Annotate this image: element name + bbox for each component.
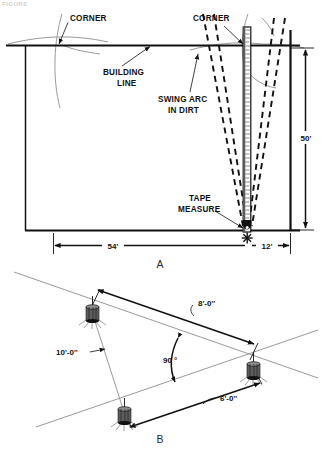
label-corner-right: CORNER [193,14,230,23]
swing-arc-dashed-right [249,18,285,226]
label-swing-arc-1: SWING ARC [158,95,207,104]
layout-figure-svg: FIGURE [0,0,321,450]
leader-building-line [122,47,150,67]
stake-upper-left [79,296,106,329]
pivot-point-starburst [242,233,253,244]
dimension-label-6ft: 6'-0'' [220,394,237,403]
label-building-line-2: LINE [117,79,137,88]
dimension-label-54ft: 54' [108,242,119,251]
leader-corner-left [59,23,68,45]
label-swing-arc-2: IN DIRT [168,106,199,115]
dimension-8ft: 8'-0'' [92,289,258,360]
figure-b-caption: B [156,433,163,445]
label-corner-left: CORNER [70,14,107,23]
swing-arc-scribe-lines [8,14,304,108]
string-line-hypotenuse [92,312,124,412]
dimension-horizontal-54: 54' [54,233,246,254]
label-tape-measure-1: TAPE [189,194,211,203]
figure-a-group: CORNER CORNER BUILDING LINE SWING ARC IN… [6,14,316,270]
page-header-crumb: FIGURE [2,1,28,7]
dimension-label-8ft: 8'-0'' [198,299,215,308]
label-tape-measure-2: MEASURE [178,205,221,214]
string-line-lower [36,330,318,427]
dimension-label-12ft: 12' [262,242,273,251]
dimension-10ft: 10'-0'' [56,348,105,357]
dimension-horizontal-12: 12' [252,233,291,254]
technical-diagram-root: FIGURE [0,0,321,450]
label-building-line-1: BUILDING [103,68,144,77]
dimension-label-50ft: 50' [301,134,312,143]
tape-measure-graphic [243,27,251,232]
stake-right-corner [240,353,267,386]
dimension-label-10ft: 10'-0'' [56,348,78,357]
dimension-label-angle: 90 ° [163,356,177,365]
dimension-vertical-50: 50' [291,48,316,230]
leader-corner-right [224,26,243,44]
figure-a-leader-lines [59,23,243,229]
dimension-6ft: 6'-0'' [124,370,262,428]
figure-a-caption: A [156,258,163,270]
figure-b-group: 8'-0'' 6'-0'' 10'-0'' 90 ° [14,272,318,445]
leader-swing-arc [190,54,198,92]
